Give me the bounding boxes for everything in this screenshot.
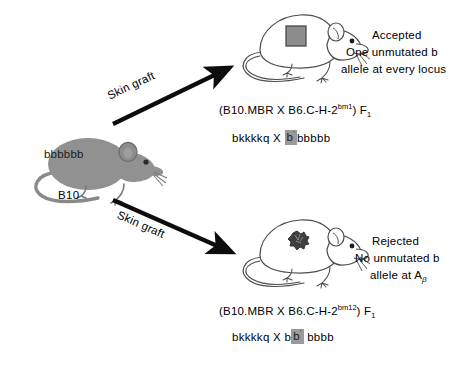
genotype-rejected-highlighted-allele: b' [291, 329, 303, 344]
genotype-accepted-cross: X [273, 132, 281, 144]
genotype-accepted-left: bkkkkq [232, 132, 270, 144]
outcome-accepted-text: Accepted One unmutated b allele at every… [360, 27, 446, 78]
accepted-description-line2: allele at every locus [341, 61, 446, 78]
status-rejected: Rejected [372, 233, 440, 250]
recipient-mouse-rejected-icon [238, 213, 368, 297]
strain-rejected-suffix: ) F [357, 305, 372, 317]
donor-mouse-icon [28, 122, 168, 212]
rejected-description-line2-prefix: allele at A [370, 269, 422, 281]
strain-label-rejected: (B10.MBR X B6.C-H-2bm12) F1 [219, 303, 375, 320]
genotype-accepted: bkkkkq X b'bbbbb [232, 131, 330, 144]
rejected-description-line2: allele at Aβ [370, 267, 440, 288]
strain-accepted-subscript: 1 [367, 110, 371, 119]
genotype-rejected-right: bbbb [307, 331, 334, 343]
status-accepted: Accepted [372, 27, 446, 44]
strain-rejected-subscript: 1 [371, 311, 375, 320]
genotype-accepted-right: bbbbb [297, 132, 330, 144]
genotype-rejected: bkkkkq X bb' bbbb [232, 330, 334, 343]
rejected-description-beta-subscript: β [422, 275, 427, 284]
genotype-accepted-highlighted-allele: b' [285, 130, 297, 145]
donor-genotype-label: bbbbbb [44, 148, 84, 160]
arrow-to-accepted-line [113, 68, 229, 124]
accepted-graft-patch [286, 26, 306, 46]
figure-canvas: bbbbbb B10 Skin graft Skin graft [0, 0, 465, 379]
graft-label-rejected: Skin graft [116, 209, 167, 241]
strain-accepted-prefix: (B10.MBR X B6.C-H-2 [219, 104, 338, 116]
donor-strain-label: B10 [58, 189, 79, 201]
outcome-rejected-text: Rejected No unmutated b allele at Aβ [360, 233, 440, 288]
strain-rejected-prefix: (B10.MBR X B6.C-H-2 [219, 305, 338, 317]
highlight-superscript-accepted: ' [293, 130, 295, 137]
highlight-allele-rejected: b [293, 330, 300, 342]
strain-accepted-suffix: ) F [352, 104, 367, 116]
strain-accepted-superscript: bm1 [338, 102, 353, 111]
highlight-superscript-rejected: ' [300, 329, 302, 336]
graft-label-accepted: Skin graft [105, 69, 156, 101]
genotype-rejected-cross: X [273, 331, 281, 343]
strain-label-accepted: (B10.MBR X B6.C-H-2bm1) F1 [219, 102, 371, 119]
rejected-description-line1: No unmutated b [355, 250, 440, 267]
genotype-rejected-left: bkkkkq [232, 331, 270, 343]
strain-rejected-superscript: bm12 [338, 303, 357, 312]
accepted-description-line1: One unmutated b [346, 44, 446, 61]
